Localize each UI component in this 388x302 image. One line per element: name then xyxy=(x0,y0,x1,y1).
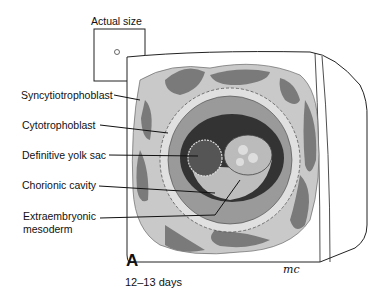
figure-caption: 12–13 days xyxy=(125,276,182,288)
actual-size-label: Actual size xyxy=(91,15,142,27)
artist-signature: mc xyxy=(283,263,300,276)
label-extraembryonic: Extraembryonic xyxy=(23,210,96,222)
amniotic-cavity xyxy=(224,135,272,175)
label-cytotrophoblast: Cytotrophoblast xyxy=(22,119,96,131)
label-definitive-yolk-sac: Definitive yolk sac xyxy=(22,149,106,161)
panel-letter: A xyxy=(126,251,138,271)
label-chorionic-cavity: Chorionic cavity xyxy=(22,179,96,191)
label-mesoderm: mesoderm xyxy=(23,223,73,235)
definitive-yolk-sac xyxy=(188,140,222,176)
label-syncytiotrophoblast: Syncytiotrophoblast xyxy=(21,89,113,101)
